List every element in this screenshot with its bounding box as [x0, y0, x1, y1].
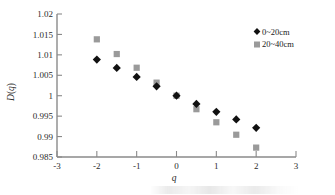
scatter-plot: 1.021.0151.011.00510.9950.990.985 -3-2-1… [0, 0, 335, 195]
x-tick-label: -2 [93, 161, 101, 171]
legend-label-1: 20~40cm [262, 39, 294, 49]
data-point-square [253, 145, 259, 151]
legend-marker-square-icon [254, 42, 260, 48]
chart-figure: 1.021.0151.011.00510.9950.990.985 -3-2-1… [0, 0, 335, 195]
data-point-square [213, 119, 219, 125]
y-tick-label: 1.01 [37, 50, 53, 60]
x-tick-label: 1 [214, 161, 219, 171]
y-tick-label: 1.015 [33, 30, 54, 40]
y-tick-label: 1 [49, 91, 54, 101]
y-tick-label: 1.005 [33, 70, 54, 80]
y-tick-label: 0.99 [37, 132, 53, 142]
x-tick-label: 3 [294, 161, 299, 171]
data-point-square [94, 36, 100, 42]
legend-label-0: 0~20cm [262, 27, 290, 37]
y-tick-label: 1.02 [37, 9, 53, 19]
data-point-square [114, 51, 120, 57]
data-point-square [233, 132, 239, 138]
y-axis-title: D(q) [6, 83, 17, 102]
x-axis-title: q [172, 173, 177, 183]
y-tick-label: 0.985 [33, 152, 54, 162]
y-tick-label: 0.995 [33, 111, 54, 121]
x-tick-label: -3 [53, 161, 61, 171]
x-tick-label: -1 [133, 161, 141, 171]
data-point-square [134, 65, 140, 71]
page-bottom-artifact [150, 186, 300, 194]
x-tick-label: 2 [254, 161, 259, 171]
x-tick-label: 0 [174, 161, 179, 171]
